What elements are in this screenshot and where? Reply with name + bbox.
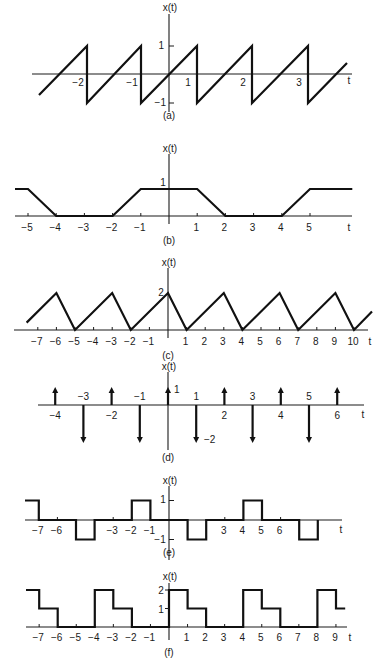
arrow-down-icon [193,437,199,443]
y-axis-label: x(t) [162,257,176,268]
x-tick-label: −4 [49,222,61,233]
x-tick-label: −4 [88,632,100,643]
arrow-up-icon [278,387,284,393]
x-tick-label: 4 [278,410,284,421]
y-tick-label: 1 [160,177,166,188]
x-tick-label: −6 [50,336,62,347]
x-tick-label: 9 [332,632,338,643]
y-tick-label: 1 [158,604,164,615]
x-axis-label: t [348,222,351,233]
x-tick-label: 2 [202,632,208,643]
x-tick-label: −2 [106,222,118,233]
x-tick-label: −2 [125,632,137,643]
x-tick-label: −1 [144,632,156,643]
x-tick-label: 1 [193,222,199,233]
y-tick-label: −1 [154,534,166,545]
x-axis-label: t [340,524,343,535]
x-tick-label: 7 [294,336,300,347]
panel-caption: (c) [162,350,174,361]
panel-caption: (b) [163,235,175,246]
x-axis-label: t [369,336,372,347]
x-tick-label: −4 [87,336,99,347]
panel-a: x(t)t(a)−2−11231−1 [32,2,352,121]
x-tick-label: −1 [126,77,138,88]
arrow-up-icon [334,387,340,393]
panel-caption: (e) [163,547,175,558]
y-tick-label: 1 [158,40,164,51]
x-tick-label: 8 [313,336,319,347]
x-tick-label: 7 [295,632,301,643]
arrow-down-icon [137,437,143,443]
x-tick-label: 1 [184,632,190,643]
y-tick-label: 2 [158,585,164,596]
x-tick-label: 5 [306,222,312,233]
x-tick-label: 5 [258,525,264,536]
x-tick-label: 3 [220,336,226,347]
x-tick-label: −3 [78,222,90,233]
y-axis-label: x(t) [162,361,176,372]
panel-caption: (f) [164,647,173,658]
x-tick-label: 1 [185,77,191,88]
panel-f: x(t)t(f)−7−6−5−4−3−2−112345678921 [26,571,352,658]
arrow-down-icon [80,437,86,443]
x-tick-label: −3 [107,632,119,643]
x-tick-label: 2 [222,410,228,421]
x-tick-label: 2 [201,336,207,347]
x-tick-label: −6 [51,632,63,643]
x-tick-label: 5 [258,632,264,643]
x-tick-label: 5 [306,391,312,402]
signal-curve [26,590,345,627]
x-tick-label: −1 [143,336,155,347]
x-tick-label: −3 [106,525,118,536]
x-tick-label: 4 [240,525,246,536]
x-tick-label: −2 [72,77,84,88]
y-tick-label: 1 [160,494,166,505]
x-tick-label: −1 [134,222,146,233]
x-tick-label: −5 [68,336,80,347]
y-axis-label: x(t) [163,475,177,486]
x-tick-label: −4 [49,410,61,421]
x-tick-label: −1 [134,391,146,402]
x-tick-label: −7 [31,336,43,347]
x-tick-label: 3 [221,525,227,536]
x-tick-label: 5 [257,336,263,347]
x-tick-label: −6 [51,525,63,536]
signal-curve [27,293,372,330]
x-tick-label: −2 [124,336,136,347]
x-tick-label: 6 [277,525,283,536]
arrow-down-icon [306,437,312,443]
panel-e: x(t)t(e)−7−6−3−2−134561−1 [25,475,343,560]
y-axis-label: x(t) [163,571,177,582]
signal-curve [25,501,318,540]
x-tick-label: 3 [296,77,302,88]
x-tick-label: 8 [314,632,320,643]
x-tick-label: 6 [276,336,282,347]
x-tick-label: 3 [250,222,256,233]
x-tick-label: 2 [222,222,228,233]
x-tick-label: −5 [70,632,82,643]
arrow-up-icon [109,387,115,393]
x-tick-label: 3 [221,632,227,643]
x-axis-label: t [349,632,352,643]
x-tick-label: 1 [183,336,189,347]
x-tick-label: 1 [193,391,199,402]
x-tick-label: −2 [106,410,118,421]
x-tick-label: −7 [32,525,44,536]
panel-d: x(t)t(d)−4−3−2−11234561−2 [38,361,365,463]
x-tick-label: 4 [239,632,245,643]
x-tick-label: 6 [334,410,340,421]
x-tick-label: 9 [332,336,338,347]
panel-c: x(t)t(c)−7−6−5−4−3−2−1123456789102 [14,257,372,361]
y-tick-label: −1 [155,97,167,108]
x-tick-label: −7 [32,632,44,643]
x-tick-label: 3 [250,391,256,402]
x-tick-label: 6 [277,632,283,643]
x-axis-label: t [348,75,351,86]
arrow-down-icon [250,437,256,443]
x-tick-label: −2 [125,525,137,536]
x-tick-label: −3 [78,391,90,402]
impulse-weight-label: −2 [204,434,216,445]
signal-figure: x(t)t(a)−2−11231−1 x(t)t(b)−5−4−3−2−1123… [0,0,384,670]
panel-caption: (d) [162,452,174,463]
x-tick-label: 4 [278,222,284,233]
